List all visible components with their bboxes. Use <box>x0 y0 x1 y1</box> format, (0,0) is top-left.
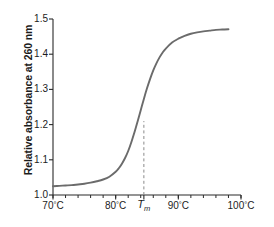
melting-curve-line <box>53 29 228 186</box>
axis-lines <box>53 19 241 195</box>
plot-area <box>0 0 274 227</box>
y-axis-ticks <box>49 19 53 195</box>
melting-curve-figure: Relative absorbance at 260 nm 1.01.11.21… <box>0 0 274 227</box>
x-axis-major-ticks <box>53 195 241 200</box>
